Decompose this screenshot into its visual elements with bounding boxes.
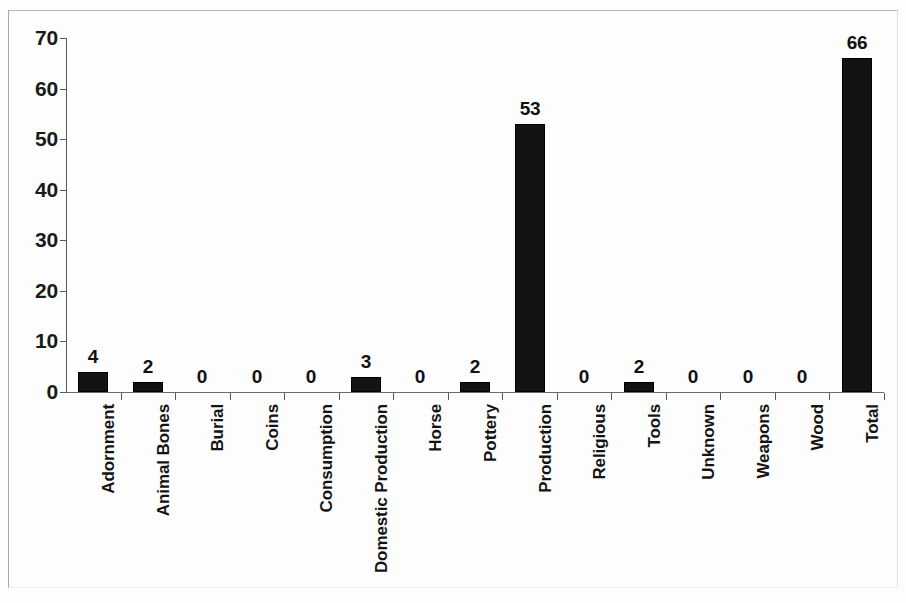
x-axis-category-label: Burial — [209, 404, 226, 452]
x-axis-tick-mark — [393, 393, 394, 400]
x-axis-tick-mark — [775, 393, 776, 400]
y-axis-tick-label: 10 — [12, 330, 58, 351]
x-axis-tick-mark — [557, 393, 558, 400]
y-axis-tick-label: 0 — [12, 381, 58, 402]
y-axis-tick-label: 60 — [12, 78, 58, 99]
x-axis-tick-mark — [829, 393, 830, 400]
x-axis-tick-mark — [230, 393, 231, 400]
y-axis-tick-label: 30 — [12, 229, 58, 250]
y-axis-tick-mark — [60, 392, 67, 393]
bar — [460, 382, 490, 392]
bar-value-label: 53 — [500, 99, 560, 118]
bar — [515, 124, 545, 392]
x-axis-tick-mark — [720, 393, 721, 400]
x-axis-tick-mark — [502, 393, 503, 400]
bar-value-label: 0 — [390, 367, 450, 386]
y-axis-tick-mark — [60, 291, 67, 292]
bar-value-label: 0 — [227, 367, 287, 386]
bar-value-label: 4 — [63, 347, 123, 366]
x-axis-category-label: Consumption — [318, 404, 335, 512]
bar-value-label: 0 — [554, 367, 614, 386]
y-axis-tick-label: 40 — [12, 179, 58, 200]
x-axis-tick-mark — [666, 393, 667, 400]
x-axis-category-label: Horse — [427, 404, 444, 452]
bar-value-label: 2 — [445, 357, 505, 376]
x-axis-category-label: Adornment — [100, 404, 117, 494]
bar-value-label: 0 — [718, 367, 778, 386]
y-axis-tick-mark — [60, 89, 67, 90]
bar-chart-plot-area: 010203040506070 42000302530200066 Adornm… — [0, 0, 906, 603]
x-axis-tick-mark — [448, 393, 449, 400]
bar-value-label: 0 — [281, 367, 341, 386]
bar-value-label: 0 — [772, 367, 832, 386]
x-axis-tick-mark — [884, 393, 885, 400]
y-axis-tick-mark — [60, 139, 67, 140]
x-axis-tick-mark — [121, 393, 122, 400]
y-axis-tick-label: 20 — [12, 280, 58, 301]
x-axis-category-label: Religious — [591, 404, 608, 480]
bar — [133, 382, 163, 392]
x-axis-category-label: Coins — [264, 404, 281, 451]
x-axis-tick-mark — [175, 393, 176, 400]
bar — [624, 382, 654, 392]
y-axis-tick-mark — [60, 38, 67, 39]
x-axis-category-label: Wood — [809, 404, 826, 451]
bar-value-label: 0 — [172, 367, 232, 386]
y-axis-tick-mark — [60, 341, 67, 342]
y-axis-line — [66, 38, 67, 392]
bar-value-label: 66 — [827, 33, 887, 52]
x-axis-category-label: Weapons — [755, 404, 772, 479]
x-axis-tick-mark — [284, 393, 285, 400]
x-axis-category-label: Unknown — [700, 404, 717, 480]
x-axis-line — [66, 392, 884, 393]
x-axis-category-label: Domestic Production — [373, 404, 390, 573]
x-axis-category-label: Animal Bones — [155, 404, 172, 516]
bar — [351, 377, 381, 392]
bar — [842, 58, 872, 392]
bar-value-label: 0 — [663, 367, 723, 386]
y-axis-tick-label: 50 — [12, 128, 58, 149]
x-axis-category-label: Pottery — [482, 404, 499, 462]
bar-value-label: 3 — [336, 352, 396, 371]
x-axis-category-label: Tools — [646, 404, 663, 448]
x-axis-tick-mark — [611, 393, 612, 400]
x-axis-category-label: Production — [537, 404, 554, 493]
y-axis-tick-mark — [60, 240, 67, 241]
x-axis-category-label: Total — [864, 404, 881, 443]
bar-value-label: 2 — [609, 357, 669, 376]
y-axis-tick-label: 70 — [12, 27, 58, 48]
chart-screenshot: 010203040506070 42000302530200066 Adornm… — [0, 0, 906, 603]
x-axis-tick-mark — [339, 393, 340, 400]
bar-value-label: 2 — [118, 357, 178, 376]
y-axis-tick-mark — [60, 190, 67, 191]
bar — [78, 372, 108, 392]
